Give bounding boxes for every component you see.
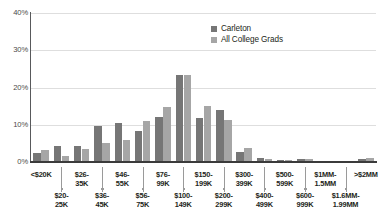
bar [102,143,109,162]
bar [143,121,150,162]
bar-group [335,13,355,162]
legend-label: All College Grads [221,36,283,44]
plot-area [31,13,376,162]
bar [123,140,130,162]
bar [74,146,81,162]
bar-group [112,13,132,162]
bar-group [295,13,315,162]
chart-legend: Carleton All College Grads [211,24,283,45]
bar-group [31,13,51,162]
bar [216,110,223,162]
bar [155,117,162,162]
legend-swatch-icon [211,37,217,43]
x-axis-tick-dot [142,188,144,190]
bar [224,120,231,162]
x-axis-tick-dot [223,188,225,190]
x-axis-tick-labels: <$20K$20-25K$26-35K$36-45K$46-55K$56-75K… [31,165,376,223]
bar-group [92,13,112,162]
bar [196,118,203,162]
x-axis-tick-label: $1.6MM-1.99MM [316,192,376,209]
bar [204,106,211,162]
bar [54,146,61,162]
x-axis-line [30,161,377,163]
bar-group [153,13,173,162]
x-axis-tick-dot [304,188,306,190]
legend-item-all-college-grads: All College Grads [211,35,283,45]
x-axis-tick-label: >$2MM [336,171,381,180]
legend-item-carleton: Carleton [211,24,283,34]
y-axis-tick-label: 10% [2,121,28,129]
x-axis-tick-dot [101,188,103,190]
bar-group [356,13,376,162]
bar-group [132,13,152,162]
y-axis-tick-label: 20% [2,84,28,92]
x-axis-tick-dot [61,188,63,190]
x-axis-tick-dot [345,188,347,190]
y-axis-tick-label: 40% [2,9,28,17]
bar-group [315,13,335,162]
bar [135,131,142,162]
bar-group [173,13,193,162]
legend-label: Carleton [221,25,251,33]
bar [115,123,122,162]
legend-swatch-icon [211,26,217,32]
x-axis-tick-dot [264,188,266,190]
bar [176,75,183,162]
bar-group [72,13,92,162]
bar-group [51,13,71,162]
bar [184,75,191,162]
y-axis-tick-labels: 0%10%20%30%40% [0,0,28,223]
bar [163,107,170,162]
y-axis-tick-label: 0% [2,158,28,166]
income-distribution-chart: 0%10%20%30%40% <$20K$20-25K$26-35K$36-45… [0,0,381,223]
y-axis-tick-label: 30% [2,46,28,54]
x-axis-tick-dot [183,188,185,190]
y-axis-line [30,12,31,162]
bar [82,149,89,162]
bar [244,148,251,162]
bar-series-container [31,13,376,162]
bar [94,126,101,163]
